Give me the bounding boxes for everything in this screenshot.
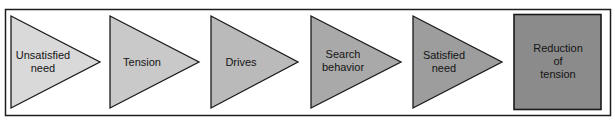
step-6-label: Reduction of tension [520,42,596,81]
step-3-label: Drives [213,56,269,69]
step-1-label: Unsatisfied need [13,49,73,75]
step-4-label: Search behavior [313,48,373,74]
step-2-label: Tension [114,56,170,69]
step-5-label: Satisfied need [414,49,474,75]
